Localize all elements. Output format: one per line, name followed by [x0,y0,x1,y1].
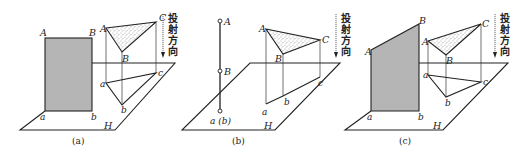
label-tri-A: A [99,23,107,34]
label-tri-A: A [421,36,429,47]
label-rect-B: B [418,15,426,26]
label-rect-A: A [39,27,47,38]
label-proj-b: b [121,105,127,115]
panel-b: A B a (b) A C B a b c H 投 射 方 向 (b) [182,12,351,146]
label-tri-B: B [274,53,282,64]
label-rect-a: a [40,112,45,122]
direction-char-3: 方 [341,34,351,46]
label-proj-b: b [445,98,451,108]
direction-char-1: 投 [341,12,351,24]
label-rect-b: b [91,112,97,122]
trapezoid-plane-c [371,24,419,111]
arrow-head-icon [493,52,497,58]
point-A-icon [218,19,222,23]
rectangle-plane-a [45,38,92,111]
label-tri-C: C [159,12,167,23]
direction-char-1: 投 [168,12,178,24]
direction-char-2: 射 [167,23,178,35]
direction-char-4: 向 [341,45,351,57]
label-proj-b: b [284,97,290,107]
label-proj-a: a [423,70,428,80]
label-tri-C: C [322,34,330,45]
direction-char-3: 方 [500,34,510,46]
direction-char-2: 射 [499,23,510,35]
label-line-A: A [223,16,231,27]
label-rect-b: b [418,112,424,122]
triangle-abc-b [266,29,320,54]
caption-b: (b) [232,136,245,146]
direction-char-1: 投 [500,12,510,24]
label-proj-a: a [262,107,267,117]
arrow-head-icon [334,52,338,58]
label-rect-A: A [364,46,372,57]
label-proj-c: c [158,68,163,78]
triangle-abc-c [428,24,481,55]
projection-abc-b [266,77,320,104]
projection-diagram: A B a b A C B a c b H 投 射 方 向 (a) [0,0,523,153]
caption-c: (c) [399,136,411,146]
triangle-abc-a [106,22,156,52]
caption-a: (a) [72,136,84,146]
h-plane-b [182,63,340,130]
label-tri-B: B [121,53,129,64]
label-plane-H: H [103,120,113,131]
label-proj-c: c [483,77,488,87]
point-B-icon [218,69,222,73]
point-ab-icon [218,109,222,113]
label-line-B: B [223,66,231,77]
label-tri-A: A [258,23,266,34]
projection-abc-c [428,75,481,97]
label-tri-B: B [445,55,453,66]
arrow-head-icon [161,52,165,58]
label-line-ab: a (b) [210,116,231,126]
label-plane-H: H [432,120,442,131]
direction-char-4: 向 [500,45,510,57]
label-proj-a: a [100,79,105,89]
direction-char-2: 射 [340,23,351,35]
label-plane-H: H [263,120,273,131]
panel-a: A B a b A C B a c b H 投 射 方 向 (a) [20,12,178,146]
label-proj-c: c [318,78,323,88]
label-tri-C: C [482,18,490,29]
direction-char-4: 向 [168,45,178,57]
direction-char-3: 方 [168,34,178,46]
panel-c: A B a b A C B a c b H 投 射 方 向 (c) [345,12,510,146]
projection-abc-a [106,73,156,105]
label-rect-a: a [367,112,372,122]
label-rect-B: B [88,27,96,38]
